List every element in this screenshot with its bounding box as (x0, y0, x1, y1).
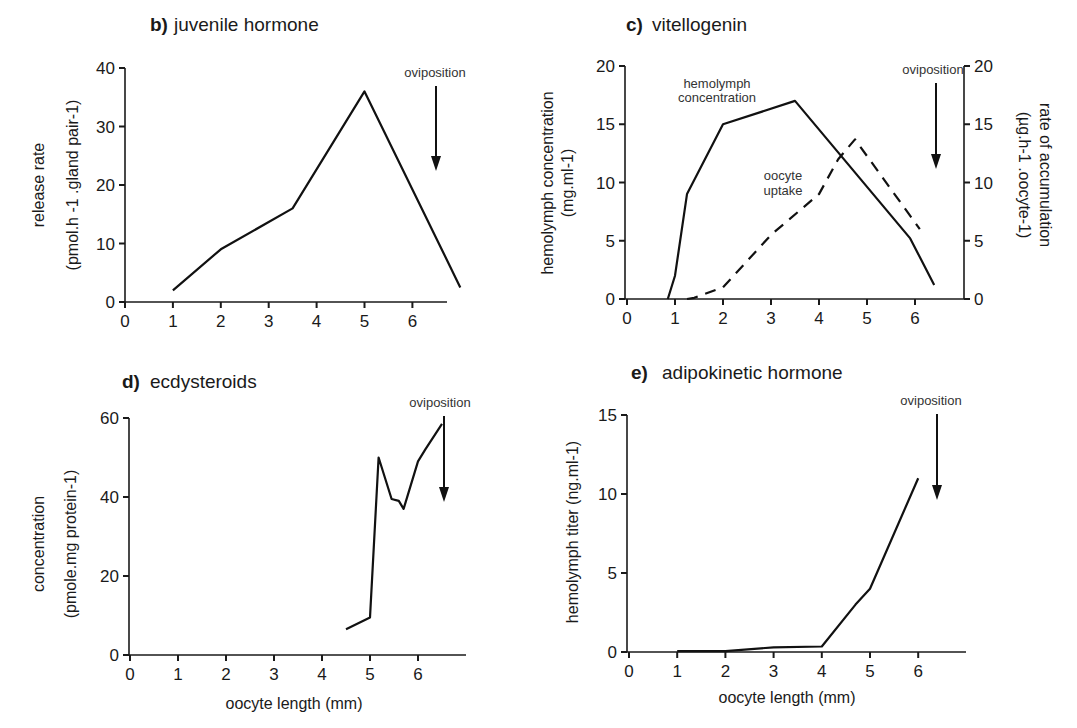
x-tick-label: 1 (670, 309, 679, 328)
series-line (173, 91, 460, 290)
y-tick-label: 10 (96, 235, 115, 254)
panel-b-x-ticks: 0123456 (120, 302, 417, 331)
panel-c-oocyte-label-line1: oocyte (764, 168, 802, 183)
panel-c-oviposition-label: oviposition (902, 62, 963, 77)
x-tick-label: 1 (672, 662, 681, 681)
x-tick-label: 5 (862, 309, 871, 328)
panel-d-oviposition-label: oviposition (409, 395, 470, 410)
panel-c-ylabel: hemolymph concentration (539, 91, 556, 274)
y-tick-label: 0 (110, 646, 119, 665)
panel-c-series (668, 101, 934, 299)
panel-c-y2label: rate of accumulation (1037, 103, 1054, 247)
y-tick-label: 5 (606, 232, 615, 251)
y-tick-label: 40 (96, 59, 115, 78)
y2-tick-label: 10 (974, 174, 993, 193)
panel-c-title: vitellogenin (652, 14, 747, 35)
y2-tick-label: 20 (974, 57, 993, 76)
panel-d-axes: 0204060 0123456 (100, 409, 466, 684)
x-tick-label: 4 (817, 662, 826, 681)
y-tick-label: 15 (598, 406, 617, 425)
x-tick-label: 2 (216, 312, 225, 331)
panel-e-ylabel: hemolymph titer (ng.ml-1) (564, 441, 581, 623)
x-tick-label: 0 (125, 665, 134, 684)
series-line (668, 101, 934, 299)
panel-e-letter: e) (631, 362, 648, 383)
panel-b-letter: b) (150, 14, 168, 35)
panel-e-x-ticks: 0123456 (624, 652, 923, 681)
panel-e-adipokinetic-hormone: e) adipokinetic hormone 051015 0123456 h… (564, 362, 966, 706)
panel-d-letter: d) (122, 371, 140, 392)
x-tick-label: 4 (312, 312, 321, 331)
x-tick-label: 3 (264, 312, 273, 331)
y-tick-label: 5 (608, 564, 617, 583)
panel-b-axes: 010203040 0123456 (96, 59, 447, 331)
panel-c-y2label-units: (µg.h-1 .oocyte-1) (1016, 112, 1033, 239)
x-tick-label: 6 (413, 665, 422, 684)
y-tick-label: 60 (100, 409, 119, 428)
x-tick-label: 0 (624, 662, 633, 681)
x-tick-label: 3 (269, 665, 278, 684)
panel-e-xlabel: oocyte length (mm) (719, 689, 856, 706)
panel-d-y-ticks: 0204060 (100, 409, 129, 665)
panel-e-axes: 051015 0123456 (598, 406, 966, 681)
x-tick-label: 5 (360, 312, 369, 331)
x-tick-label: 2 (718, 309, 727, 328)
y-tick-label: 40 (100, 488, 119, 507)
series-line (346, 424, 442, 629)
x-tick-label: 2 (721, 662, 730, 681)
panel-b-ylabel-units: (pmol.h -1 .gland pair-1) (64, 100, 81, 271)
series-line (687, 139, 920, 299)
y-tick-label: 0 (606, 290, 615, 309)
x-tick-label: 1 (173, 665, 182, 684)
panel-c-x-ticks: 0123456 (622, 299, 919, 328)
panel-c-vitellogenin: c) vitellogenin 05101520 05101520 012345… (539, 14, 1054, 328)
panel-d-oviposition-arrow-icon (439, 416, 449, 502)
y2-tick-label: 15 (974, 115, 993, 134)
x-tick-label: 5 (365, 665, 374, 684)
panel-c-y-ticks: 05101520 (596, 57, 625, 309)
x-tick-label: 3 (769, 662, 778, 681)
panel-e-series (677, 478, 918, 651)
y-tick-label: 10 (596, 174, 615, 193)
panel-e-oviposition-arrow-icon (932, 414, 942, 500)
panel-e-y-ticks: 051015 (598, 406, 627, 662)
panel-c-letter: c) (626, 14, 643, 35)
panel-b-juvenile-hormone: b) juvenile hormone 010203040 0123456 re… (30, 14, 466, 331)
y2-tick-label: 5 (974, 232, 983, 251)
panel-b-y-ticks: 010203040 (96, 59, 125, 312)
x-tick-label: 3 (766, 309, 775, 328)
x-tick-label: 5 (865, 662, 874, 681)
panel-d-x-ticks: 0123456 (125, 655, 422, 684)
y-tick-label: 15 (596, 115, 615, 134)
panel-b-series (173, 91, 460, 290)
x-tick-label: 6 (910, 309, 919, 328)
panel-d-ylabel-units: (pmole.mg protein-1) (62, 470, 79, 619)
x-tick-label: 0 (120, 312, 129, 331)
panel-d-xlabel: oocyte length (mm) (226, 695, 363, 712)
x-tick-label: 2 (221, 665, 230, 684)
x-tick-label: 0 (622, 309, 631, 328)
y-tick-label: 20 (96, 176, 115, 195)
y2-tick-label: 0 (974, 290, 983, 309)
y-tick-label: 30 (96, 118, 115, 137)
panel-b-ylabel: release rate (30, 143, 47, 228)
y-tick-label: 0 (608, 643, 617, 662)
y-tick-label: 10 (598, 485, 617, 504)
panel-d-title: ecdysteroids (150, 371, 257, 392)
x-tick-label: 6 (913, 662, 922, 681)
panel-d-ecdysteroids: d) ecdysteroids 0204060 0123456 concentr… (30, 371, 471, 712)
x-tick-label: 4 (317, 665, 326, 684)
panel-b-oviposition-arrow-icon (431, 86, 441, 171)
panel-d-series (346, 424, 442, 629)
y-tick-label: 0 (106, 293, 115, 312)
panel-c-hemolymph-label-line2: concentration (678, 90, 756, 105)
x-tick-label: 6 (408, 312, 417, 331)
figure: b) juvenile hormone 010203040 0123456 re… (0, 0, 1077, 728)
panel-b-oviposition-label: oviposition (404, 65, 465, 80)
panel-c-ylabel-units: (mg.ml-1) (559, 149, 576, 217)
y-tick-label: 20 (596, 57, 615, 76)
series-line (677, 478, 918, 651)
panel-d-ylabel: concentration (30, 496, 47, 592)
x-tick-label: 1 (168, 312, 177, 331)
x-tick-label: 4 (814, 309, 823, 328)
